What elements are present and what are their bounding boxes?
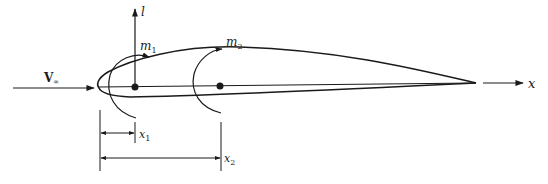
lift-label: l [141,5,145,19]
freestream-label: V∞ [43,71,59,86]
x1-label: x1 [139,128,150,143]
x-axis-label: x [528,76,536,91]
moment-2-label: m2 [226,35,242,51]
x2-label: x2 [224,152,235,167]
airfoil-diagram: V∞ l m1 m2 x x1 [0,0,548,184]
moment-1-label: m1 [140,39,156,55]
moment-arc-2 [193,49,222,113]
point-1 [132,84,139,91]
point-2 [217,83,224,90]
dimension-lines [100,110,221,171]
